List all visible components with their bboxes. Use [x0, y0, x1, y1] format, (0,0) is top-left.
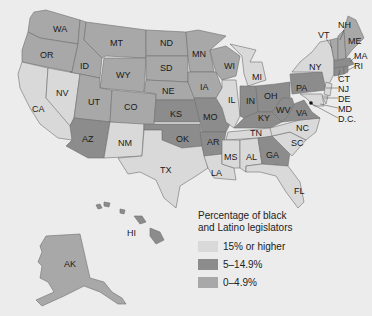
label-UT: UT [88, 97, 100, 107]
label-MT: MT [110, 38, 123, 48]
label-CO: CO [124, 102, 138, 112]
label-GA: GA [266, 150, 279, 160]
label-NH: NH [338, 20, 351, 30]
legend-item-mid: 5–14.9% [198, 259, 372, 270]
label-PA: PA [296, 83, 307, 93]
label-MA: MA [354, 51, 368, 61]
label-NE: NE [162, 86, 175, 96]
label-NV: NV [56, 88, 69, 98]
label-AL: AL [246, 152, 257, 162]
label-AR: AR [207, 137, 220, 147]
label-AZ: AZ [82, 134, 94, 144]
label-OH: OH [264, 91, 278, 101]
legend-label-mid: 5–14.9% [223, 259, 262, 270]
label-MD: MD [338, 104, 352, 114]
label-NC: NC [296, 123, 309, 133]
label-KY: KY [258, 113, 270, 123]
legend-item-high: 15% or higher [198, 241, 372, 252]
label-WA: WA [53, 24, 67, 34]
label-IN: IN [246, 96, 255, 106]
legend: Percentage of black and Latino legislato… [198, 210, 372, 288]
label-MI: MI [252, 72, 262, 82]
label-SC: SC [291, 138, 304, 148]
label-ME: ME [348, 36, 362, 46]
label-DC: D.C. [338, 114, 356, 124]
label-CA: CA [32, 104, 45, 114]
state-AK [36, 234, 126, 306]
label-MO: MO [203, 112, 218, 122]
legend-label-high: 15% or higher [223, 241, 285, 252]
label-AK: AK [64, 259, 76, 269]
label-MN: MN [192, 49, 206, 59]
label-HI: HI [127, 228, 136, 238]
legend-title-line2: and Latino legislators [198, 222, 372, 234]
label-MS: MS [224, 152, 238, 162]
label-LA: LA [211, 168, 222, 178]
label-NJ: NJ [338, 84, 349, 94]
label-WY: WY [116, 70, 131, 80]
label-SD: SD [160, 63, 173, 73]
label-FL: FL [294, 186, 305, 196]
label-ID: ID [80, 61, 90, 71]
label-NY: NY [309, 62, 322, 72]
label-OR: OR [40, 50, 54, 60]
legend-swatch-mid [198, 259, 218, 270]
legend-swatch-low [198, 277, 218, 288]
state-RI [344, 66, 348, 74]
label-WV: WV [276, 105, 291, 115]
label-TN: TN [250, 128, 262, 138]
label-TX: TX [160, 165, 172, 175]
label-WI: WI [224, 61, 235, 71]
legend-swatch-high [198, 241, 218, 252]
label-DE: DE [338, 94, 351, 104]
label-VA: VA [296, 108, 307, 118]
label-KS: KS [170, 109, 182, 119]
label-RI: RI [354, 61, 363, 71]
label-NM: NM [118, 138, 132, 148]
label-VT: VT [318, 30, 330, 40]
legend-title-line1: Percentage of black [198, 210, 372, 222]
label-IL: IL [228, 95, 236, 105]
label-OK: OK [176, 134, 189, 144]
label-IA: IA [200, 82, 209, 92]
label-CT: CT [338, 74, 350, 84]
legend-item-low: 0–4.9% [198, 277, 372, 288]
label-ND: ND [160, 38, 173, 48]
legend-label-low: 0–4.9% [223, 277, 257, 288]
